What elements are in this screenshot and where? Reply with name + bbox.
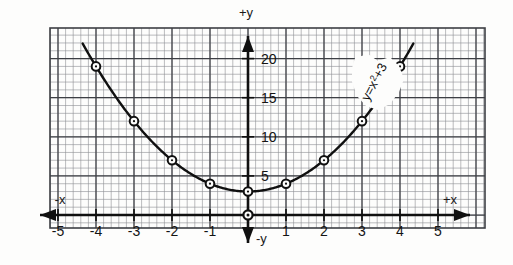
x-axis-tick-label: -3 [128,223,141,239]
y-axis-tick-label: 5 [261,168,269,184]
data-point-marker [92,62,101,71]
x-axis-tick-label: -4 [90,223,103,239]
parabola-graph-figure: -5-4-3-2-1123455101520 y=x2+3 +y -y +x -… [0,0,513,265]
x-axis-tick-label: -2 [166,223,179,239]
data-point-marker [168,156,177,165]
y-axis-tick-label: 10 [261,129,277,145]
data-point-marker [320,156,329,165]
y-axis-tick-label: 15 [261,90,277,106]
x-axis-tick-label: 2 [320,223,328,239]
x-axis-tick-label: 4 [396,223,404,239]
x-axis-tick-label: -5 [52,223,65,239]
data-point-marker [206,179,215,188]
x-axis-tick-label: 5 [434,223,442,239]
coordinate-plane-plot: -5-4-3-2-1123455101520 y=x2+3 +y -y +x -… [0,0,513,265]
y-axis-tick-label: 20 [261,51,277,67]
x-axis-tick-label: 3 [358,223,366,239]
y-negative-axis-label: -y [256,231,267,246]
data-point-marker [358,117,367,126]
data-point-marker [282,179,291,188]
origin-marker [243,210,252,219]
x-positive-axis-label: +x [443,192,458,207]
x-axis-tick-label: 1 [282,223,290,239]
data-point-marker [244,187,253,196]
x-negative-axis-label: -x [55,192,66,207]
x-axis-tick-label: -1 [204,223,217,239]
data-point-marker [130,117,139,126]
y-positive-axis-label: +y [239,5,254,20]
